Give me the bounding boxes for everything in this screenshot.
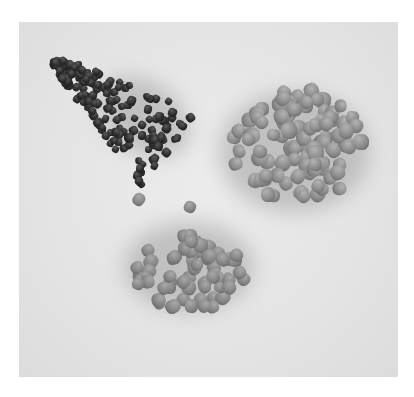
pellet bbox=[130, 191, 147, 208]
photo: Photograph of three piles of fish-feed p… bbox=[19, 22, 398, 377]
pellet bbox=[182, 199, 198, 215]
pile-medium-pellets bbox=[19, 22, 398, 377]
